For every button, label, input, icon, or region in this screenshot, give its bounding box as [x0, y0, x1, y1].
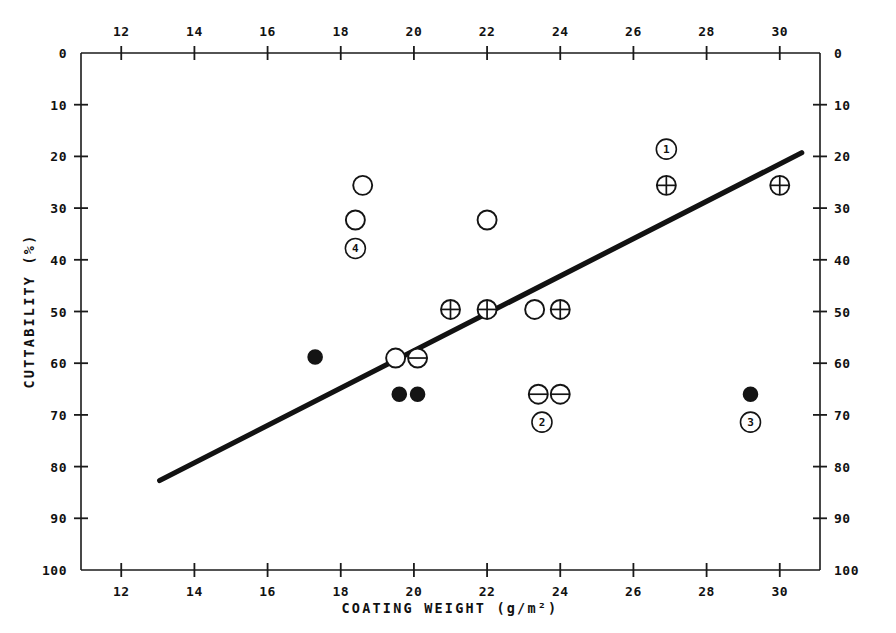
x-tick-label: 18: [332, 584, 349, 599]
annotation-2: 2: [532, 412, 552, 432]
x-tick-label: 22: [479, 584, 496, 599]
chart-figure: 12141618202224262830 1214161820222426283…: [0, 0, 896, 633]
marker-filled-circle: [392, 387, 406, 401]
y-tick-label: 80: [50, 460, 67, 475]
marker-filled-circle: [411, 387, 425, 401]
marker-open-circle: [386, 349, 405, 368]
marker-circle-minus: [529, 385, 548, 404]
marker-open-circle: [525, 300, 544, 319]
y-tick-label: 10: [50, 98, 67, 113]
open-circle-icon: [386, 349, 405, 368]
marker-circle-plus: [657, 176, 676, 195]
y-tick-label: 60: [834, 356, 851, 371]
annotation-label: 1: [663, 143, 670, 156]
annotation-4: 4: [345, 238, 365, 258]
annotation-3: 3: [740, 412, 760, 432]
filled-circle-icon: [308, 350, 322, 364]
x-tick-label: 26: [625, 584, 642, 599]
x-tick-labels-top: 12141618202224262830: [113, 24, 788, 39]
filled-circle-icon: [411, 387, 425, 401]
scatter-plot-canvas: 12141618202224262830 1214161820222426283…: [0, 0, 896, 633]
marker-open-circle: [346, 210, 365, 229]
y-tick-label: 40: [834, 253, 851, 268]
x-tick-label: 12: [113, 584, 130, 599]
x-tick-label: 16: [259, 24, 276, 39]
y-tick-label: 90: [50, 511, 67, 526]
marker-open-circle: [353, 176, 372, 195]
annotation-label: 2: [539, 416, 546, 429]
y-tick-label: 50: [834, 305, 851, 320]
x-tick-label: 12: [113, 24, 130, 39]
annotation-label: 4: [352, 242, 359, 255]
x-tick-label: 20: [406, 584, 423, 599]
x-tick-label: 24: [552, 584, 569, 599]
x-tick-label: 14: [186, 24, 203, 39]
y-tick-label: 20: [834, 149, 851, 164]
y-tick-label: 20: [50, 149, 67, 164]
y-tick-label: 80: [834, 460, 851, 475]
x-tick-label: 24: [552, 24, 569, 39]
marker-circle-plus: [441, 300, 460, 319]
y-tick-label: 60: [50, 356, 67, 371]
y-tick-label: 70: [834, 408, 851, 423]
x-tick-label: 28: [698, 24, 715, 39]
marker-circle-plus: [551, 300, 570, 319]
x-tick-label: 20: [406, 24, 423, 39]
x-tick-label: 30: [771, 24, 788, 39]
marker-filled-circle: [308, 350, 322, 364]
y-tick-label: 100: [42, 563, 67, 578]
marker-circle-plus: [770, 176, 789, 195]
y-tick-label: 0: [59, 46, 67, 61]
filled-circle-icon: [743, 387, 757, 401]
y-tick-label: 0: [834, 46, 842, 61]
annotation-1: 1: [656, 139, 676, 159]
open-circle-icon: [478, 210, 497, 229]
x-tick-label: 26: [625, 24, 642, 39]
annotation-label: 3: [747, 416, 754, 429]
open-circle-icon: [353, 176, 372, 195]
y-tick-label: 90: [834, 511, 851, 526]
filled-circle-icon: [392, 387, 406, 401]
x-tick-labels-bottom: 12141618202224262830: [113, 584, 788, 599]
x-tick-label: 30: [771, 584, 788, 599]
y-tick-label: 10: [834, 98, 851, 113]
marker-circle-minus: [408, 349, 427, 368]
x-tick-label: 16: [259, 584, 276, 599]
marker-filled-circle: [743, 387, 757, 401]
y-tick-label: 70: [50, 408, 67, 423]
x-tick-label: 14: [186, 584, 203, 599]
y-tick-labels-left: 0102030405060708090100: [42, 46, 67, 578]
y-tick-labels-right: 0102030405060708090100: [834, 46, 859, 578]
y-tick-label: 40: [50, 253, 67, 268]
marker-open-circle: [478, 210, 497, 229]
y-tick-label: 50: [50, 305, 67, 320]
open-circle-icon: [525, 300, 544, 319]
x-tick-label: 18: [332, 24, 349, 39]
x-tick-label: 28: [698, 584, 715, 599]
marker-circle-plus: [478, 300, 497, 319]
x-axis-title: COATING WEIGHT (g/m²): [342, 600, 559, 616]
y-tick-label: 30: [834, 201, 851, 216]
y-tick-label: 100: [834, 563, 859, 578]
y-axis-title: CUTTABILITY (%): [21, 234, 37, 389]
marker-circle-minus: [551, 385, 570, 404]
y-tick-label: 30: [50, 201, 67, 216]
open-circle-icon: [346, 210, 365, 229]
x-tick-label: 22: [479, 24, 496, 39]
